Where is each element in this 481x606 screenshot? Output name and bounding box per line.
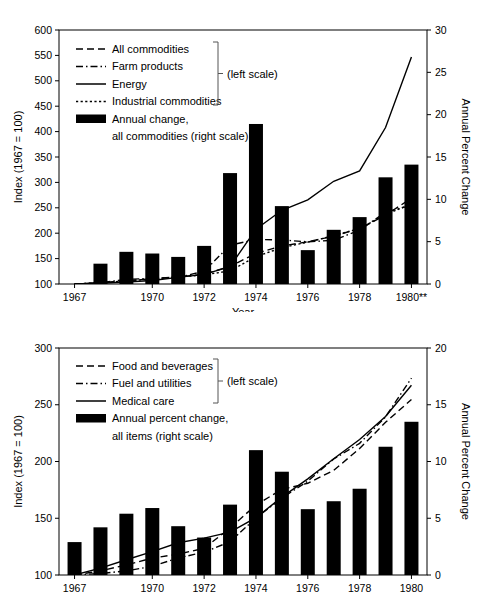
right-axis: 051015202530 bbox=[427, 24, 447, 290]
right-axis: 05101520 bbox=[427, 342, 447, 581]
left-axis-tick-label: 250 bbox=[34, 201, 52, 213]
left-axis-tick-label: 300 bbox=[34, 342, 52, 354]
bar bbox=[93, 264, 107, 284]
x-axis-tick-label: 1974 bbox=[244, 582, 268, 594]
legend-label: Medical care bbox=[112, 395, 174, 407]
left-axis-tick-label: 200 bbox=[34, 455, 52, 467]
left-scale-note: (left scale) bbox=[227, 68, 278, 80]
left-axis-tick-label: 350 bbox=[34, 151, 52, 163]
bar bbox=[68, 542, 82, 575]
legend-label: Food and beverages bbox=[112, 360, 213, 372]
x-axis-tick-label: 1980** bbox=[396, 291, 428, 303]
right-axis-tick-label: 10 bbox=[435, 455, 447, 467]
x-axis-tick-label: 1972 bbox=[192, 582, 216, 594]
legend-label: all commodities (right scale) bbox=[112, 130, 248, 142]
two-panel-price-index-figure: 1001502002503003504004505005506000510152… bbox=[0, 0, 481, 606]
bar bbox=[275, 472, 289, 575]
bar bbox=[197, 538, 211, 575]
bar bbox=[275, 206, 289, 284]
bar bbox=[249, 450, 263, 575]
right-axis-tick-label: 5 bbox=[435, 235, 441, 247]
x-axis: 1967197019721974197619781980 bbox=[63, 575, 423, 594]
left-scale-note: (left scale) bbox=[227, 375, 278, 387]
legend-label: Industrial commodities bbox=[112, 95, 222, 107]
x-axis-tick-label: 1980 bbox=[400, 582, 424, 594]
legend-label: Energy bbox=[112, 78, 147, 90]
x-axis-title: Year bbox=[232, 306, 255, 312]
legend-label: Annual percent change, bbox=[112, 412, 228, 424]
left-axis-tick-label: 100 bbox=[34, 278, 52, 290]
bar bbox=[171, 257, 185, 284]
consumer-price-index-chart: 1001502002503000510152019671970197219741… bbox=[0, 320, 481, 606]
left-axis-tick-label: 600 bbox=[34, 24, 52, 36]
bar bbox=[301, 250, 315, 284]
right-axis-tick-label: 0 bbox=[435, 278, 441, 290]
left-axis-tick-label: 200 bbox=[34, 227, 52, 239]
right-axis-tick-label: 0 bbox=[435, 569, 441, 581]
legend-swatch-bar bbox=[76, 414, 106, 423]
right-axis-tick-label: 15 bbox=[435, 398, 447, 410]
left-axis-tick-label: 250 bbox=[34, 398, 52, 410]
legend-label: Fuel and utilities bbox=[112, 377, 192, 389]
top-chart-svg: 1001502002503003504004505005506000510152… bbox=[0, 0, 481, 312]
x-axis-tick-label: 1978 bbox=[348, 291, 372, 303]
bar bbox=[353, 489, 367, 575]
producer-price-index-chart: 1001502002503003504004505005506000510152… bbox=[0, 0, 481, 312]
right-axis-tick-label: 10 bbox=[435, 193, 447, 205]
x-axis-tick-label: 1972 bbox=[192, 291, 216, 303]
left-axis-tick-label: 550 bbox=[34, 49, 52, 61]
x-axis-tick-label: 1967 bbox=[63, 291, 87, 303]
bar bbox=[404, 422, 418, 575]
bar bbox=[223, 505, 237, 575]
right-axis-tick-label: 15 bbox=[435, 151, 447, 163]
right-axis-tick-label: 5 bbox=[435, 512, 441, 524]
left-axis: 100150200250300350400450500550600 bbox=[34, 24, 59, 290]
x-axis-tick-label: 1970 bbox=[141, 582, 165, 594]
x-axis-tick-label: 1970 bbox=[141, 291, 165, 303]
left-axis-tick-label: 400 bbox=[34, 125, 52, 137]
left-axis-tick-label: 150 bbox=[34, 512, 52, 524]
bar bbox=[379, 447, 393, 575]
left-axis-tick-label: 450 bbox=[34, 100, 52, 112]
y2-axis-title: Annual Percent Change bbox=[460, 99, 472, 216]
bar bbox=[119, 252, 133, 284]
legend-swatch-bar bbox=[76, 115, 106, 124]
legend-label: Farm products bbox=[112, 60, 183, 72]
legend-label: Annual change, bbox=[112, 113, 188, 125]
left-axis-tick-label: 300 bbox=[34, 176, 52, 188]
x-axis-tick-label: 1976 bbox=[296, 291, 320, 303]
legend-label: All commodities bbox=[112, 43, 190, 55]
bar bbox=[197, 246, 211, 284]
left-axis-tick-label: 500 bbox=[34, 74, 52, 86]
x-axis-tick-label: 1974 bbox=[244, 291, 268, 303]
legend-label: all items (right scale) bbox=[112, 430, 213, 442]
bottom-chart-svg: 1001502002503000510152019671970197219741… bbox=[0, 320, 481, 606]
bar bbox=[327, 501, 341, 575]
right-axis-tick-label: 20 bbox=[435, 342, 447, 354]
bar bbox=[301, 509, 315, 575]
x-axis-tick-label: 1976 bbox=[296, 582, 320, 594]
x-axis-tick-label: 1978 bbox=[348, 582, 372, 594]
left-axis-tick-label: 150 bbox=[34, 252, 52, 264]
bar bbox=[404, 165, 418, 284]
bar bbox=[171, 526, 185, 575]
right-axis-tick-label: 30 bbox=[435, 24, 447, 36]
y-axis-title: Index (1967 = 100) bbox=[12, 111, 24, 204]
bar bbox=[379, 177, 393, 284]
x-axis-tick-label: 1967 bbox=[63, 582, 87, 594]
y2-axis-title: Annual Percent Change bbox=[460, 403, 472, 520]
right-axis-tick-label: 25 bbox=[435, 66, 447, 78]
right-axis-tick-label: 20 bbox=[435, 108, 447, 120]
x-axis: 1967197019721974197619781980** bbox=[63, 284, 427, 303]
left-axis-tick-label: 100 bbox=[34, 569, 52, 581]
y-axis-title: Index (1967 = 100) bbox=[12, 415, 24, 508]
left-axis: 100150200250300 bbox=[34, 342, 59, 581]
